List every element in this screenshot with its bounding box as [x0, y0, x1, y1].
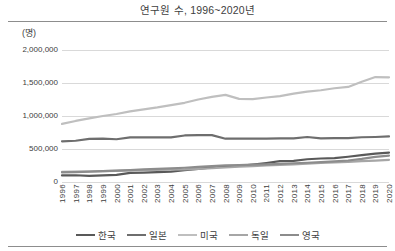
- x-axis-tick-label: 2017: [344, 184, 353, 203]
- legend-item-독일[interactable]: 독일: [229, 228, 269, 242]
- x-axis-tick-label: 2019: [371, 184, 380, 203]
- legend-divider: [8, 246, 387, 247]
- legend-item-label: 미국: [200, 228, 218, 242]
- x-axis-tick-label: 2011: [262, 184, 271, 202]
- x-axis-tick-label: 1999: [99, 184, 108, 203]
- legend-swatch-icon: [280, 234, 299, 237]
- x-axis-tick-label: 2002: [140, 184, 149, 203]
- page-title: 연구원 수, 1996~2020년: [0, 2, 395, 17]
- x-axis-tick-label: 2014: [303, 184, 312, 203]
- legend-item-label: 한국: [98, 228, 116, 242]
- chart-lines: [62, 50, 389, 182]
- y-axis-tick-label: 500,000: [2, 145, 58, 153]
- x-axis-tick-label: 2020: [385, 184, 394, 203]
- plot-area: [62, 50, 389, 182]
- y-axis: 2,000,0001,500,0001,000,000500,0000: [0, 0, 58, 251]
- legend-item-label: 독일: [251, 228, 269, 242]
- chart-figure: 연구원 수, 1996~2020년 (명) 2,000,0001,500,000…: [0, 0, 395, 251]
- series-line-한국: [62, 153, 389, 176]
- x-axis-tick-label: 2008: [222, 184, 231, 203]
- legend-swatch-icon: [178, 234, 197, 237]
- x-axis-tick-label: 2005: [181, 184, 190, 203]
- legend-swatch-icon: [127, 234, 146, 237]
- x-axis-tick-label: 2003: [153, 184, 162, 203]
- y-axis-tick-label: 2,000,000: [2, 46, 58, 54]
- series-line-일본: [62, 135, 389, 141]
- y-axis-tick-label: 0: [2, 178, 58, 186]
- x-axis-tick-label: 2018: [358, 184, 367, 203]
- y-axis-tick-label: 1,000,000: [2, 112, 58, 120]
- x-axis-tick-label: 2001: [126, 184, 135, 203]
- x-axis-tick-label: 1998: [85, 184, 94, 203]
- title-divider: [8, 21, 387, 22]
- legend-item-일본[interactable]: 일본: [127, 228, 167, 242]
- legend-item-label: 일본: [149, 228, 167, 242]
- legend-swatch-icon: [229, 234, 248, 237]
- x-axis-tick-label: 2016: [331, 184, 340, 203]
- x-axis-tick-label: 2000: [113, 184, 122, 203]
- y-axis-tick-label: 1,500,000: [2, 79, 58, 87]
- x-axis-tick-label: 2009: [235, 184, 244, 203]
- x-axis-tick-label: 1997: [72, 184, 81, 203]
- legend-item-한국[interactable]: 한국: [76, 228, 116, 242]
- legend-item-영국[interactable]: 영국: [280, 228, 320, 242]
- x-axis-tick-label: 1996: [58, 184, 67, 203]
- x-axis-tick-label: 2013: [290, 184, 299, 203]
- x-axis-tick-label: 2012: [276, 184, 285, 203]
- legend-item-미국[interactable]: 미국: [178, 228, 218, 242]
- legend-swatch-icon: [76, 234, 95, 237]
- x-axis-tick-label: 2006: [194, 184, 203, 203]
- legend-item-label: 영국: [302, 228, 320, 242]
- x-axis: 1996199719981999200020012002200320042005…: [62, 184, 389, 224]
- x-axis-tick-label: 2004: [167, 184, 176, 203]
- x-axis-tick-label: 2007: [208, 184, 217, 203]
- x-axis-tick-label: 2010: [249, 184, 258, 203]
- chart-legend: 한국일본미국독일영국: [0, 228, 395, 242]
- x-axis-tick-label: 2015: [317, 184, 326, 203]
